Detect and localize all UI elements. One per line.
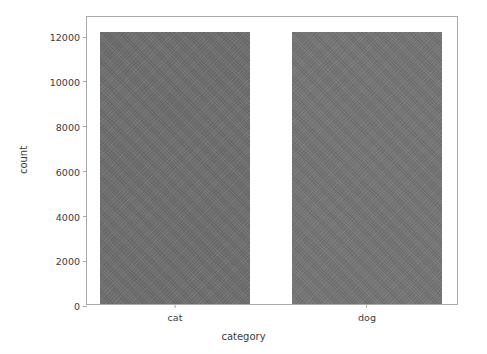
x-axis-title: category: [0, 332, 487, 342]
bar-dog[interactable]: [292, 32, 442, 304]
y-tick-mark: [83, 171, 87, 172]
plot-area: 12000 10000 8000 6000 4000 2000 0: [86, 16, 458, 305]
y-tick-label: 12000: [50, 33, 80, 43]
y-tick-mark: [83, 126, 87, 127]
x-tick-dog: dog: [358, 304, 376, 323]
x-tick-mark: [175, 304, 176, 308]
y-tick-mark: [83, 261, 87, 262]
bar-texture: [100, 32, 250, 304]
x-tick-label: cat: [168, 313, 183, 323]
y-tick-label: 0: [74, 302, 80, 312]
y-tick-label: 8000: [56, 122, 80, 132]
x-tick-cat: cat: [168, 304, 183, 323]
y-axis-title: count: [19, 146, 29, 174]
y-tick-label: 10000: [50, 78, 80, 88]
y-tick-label: 4000: [56, 212, 80, 222]
bar-texture: [292, 32, 442, 304]
y-tick-label: 6000: [56, 167, 80, 177]
bar-cat[interactable]: [100, 32, 250, 304]
figure-canvas: 12000 10000 8000 6000 4000 2000 0: [0, 0, 487, 354]
y-tick-mark: [83, 81, 87, 82]
y-tick-mark: [83, 306, 87, 307]
y-tick-label: 2000: [56, 257, 80, 267]
x-tick-label: dog: [358, 313, 376, 323]
y-tick-mark: [83, 37, 87, 38]
x-tick-mark: [367, 304, 368, 308]
y-tick-mark: [83, 216, 87, 217]
